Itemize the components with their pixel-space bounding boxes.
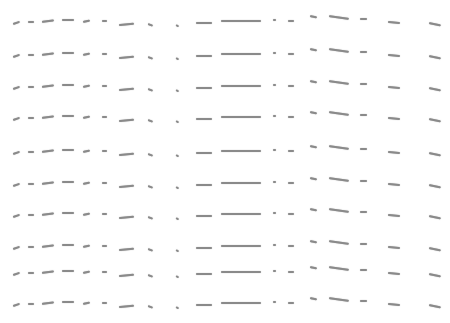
- stroke-mark: [83, 116, 90, 119]
- stroke-mark: [273, 84, 276, 86]
- stroke-mark: [360, 211, 367, 213]
- stroke-mark: [221, 85, 261, 87]
- stroke-mark: [310, 145, 317, 148]
- stroke-mark: [388, 151, 400, 154]
- stroke-mark: [388, 303, 400, 306]
- stroke-mark: [102, 182, 107, 184]
- stroke-mark: [329, 145, 349, 150]
- stroke-mark: [13, 54, 20, 58]
- stroke-mark: [221, 302, 261, 304]
- stroke-mark: [83, 302, 90, 305]
- stroke-mark: [28, 246, 34, 248]
- stroke-mark: [42, 19, 54, 23]
- stroke-mark: [148, 248, 153, 252]
- stroke-mark: [28, 54, 34, 56]
- stroke-mark: [119, 305, 134, 308]
- stroke-mark: [62, 181, 74, 183]
- stroke-mark: [360, 51, 367, 53]
- stroke-mark: [42, 212, 54, 216]
- stroke-mark: [273, 149, 276, 151]
- stroke-mark: [329, 15, 349, 20]
- stroke-mark: [176, 89, 180, 92]
- stroke-mark: [329, 48, 349, 53]
- stroke-mark: [329, 297, 349, 302]
- stroke-mark: [310, 297, 317, 300]
- stroke-mark: [310, 111, 317, 114]
- stroke-mark: [148, 88, 153, 92]
- stroke-mark: [42, 270, 54, 274]
- stroke-mark: [310, 240, 317, 243]
- stroke-mark: [310, 80, 317, 83]
- stroke-mark: [176, 217, 180, 220]
- stroke-mark: [360, 148, 367, 150]
- stroke-mark: [13, 117, 20, 121]
- stroke-mark: [310, 208, 317, 211]
- stroke-mark: [360, 269, 367, 271]
- stroke-mark: [429, 152, 441, 156]
- stroke-mark: [102, 302, 107, 304]
- stroke-mark: [28, 86, 34, 88]
- stroke-mark: [83, 85, 90, 88]
- stroke-mark: [83, 213, 90, 216]
- stroke-mark: [221, 182, 261, 184]
- stroke-mark: [196, 55, 212, 57]
- stroke-mark: [288, 271, 294, 273]
- stroke-mark: [148, 153, 153, 157]
- stroke-mark: [148, 119, 153, 123]
- stroke-mark: [176, 186, 180, 189]
- stroke-pattern-canvas: [0, 0, 450, 323]
- stroke-mark: [42, 52, 54, 56]
- stroke-mark: [102, 271, 107, 273]
- stroke-mark: [176, 154, 180, 157]
- stroke-mark: [329, 177, 349, 182]
- stroke-mark: [196, 118, 212, 120]
- stroke-mark: [62, 301, 74, 303]
- stroke-mark: [288, 213, 294, 215]
- stroke-mark: [42, 301, 54, 305]
- stroke-mark: [221, 245, 261, 247]
- stroke-mark: [273, 301, 276, 303]
- stroke-mark: [221, 20, 261, 22]
- stroke-mark: [62, 244, 74, 246]
- stroke-mark: [360, 83, 367, 85]
- stroke-mark: [388, 117, 400, 120]
- stroke-mark: [329, 80, 349, 85]
- stroke-mark: [176, 275, 180, 278]
- stroke-mark: [176, 57, 180, 60]
- stroke-mark: [360, 180, 367, 182]
- stroke-mark: [388, 246, 400, 249]
- stroke-mark: [83, 271, 90, 274]
- stroke-mark: [102, 53, 107, 55]
- stroke-mark: [388, 272, 400, 275]
- stroke-mark: [102, 150, 107, 152]
- stroke-mark: [13, 272, 20, 276]
- stroke-mark: [119, 274, 134, 277]
- stroke-mark: [83, 245, 90, 248]
- stroke-mark: [119, 119, 134, 122]
- stroke-mark: [42, 244, 54, 248]
- stroke-mark: [310, 266, 317, 269]
- stroke-mark: [329, 240, 349, 245]
- stroke-mark: [196, 247, 212, 249]
- stroke-mark: [360, 243, 367, 245]
- stroke-mark: [119, 185, 134, 188]
- stroke-mark: [13, 303, 20, 307]
- stroke-mark: [13, 151, 20, 155]
- stroke-mark: [102, 213, 107, 215]
- stroke-mark: [176, 306, 180, 309]
- stroke-mark: [83, 150, 90, 153]
- stroke-mark: [119, 56, 134, 59]
- stroke-mark: [148, 23, 153, 27]
- stroke-mark: [62, 84, 74, 86]
- stroke-mark: [360, 18, 367, 20]
- stroke-mark: [176, 120, 180, 123]
- stroke-mark: [388, 214, 400, 217]
- stroke-mark: [429, 55, 441, 59]
- stroke-mark: [388, 54, 400, 57]
- stroke-mark: [196, 22, 212, 24]
- stroke-mark: [42, 84, 54, 88]
- stroke-mark: [119, 88, 134, 91]
- stroke-mark: [28, 214, 34, 216]
- stroke-mark: [102, 245, 107, 247]
- stroke-mark: [102, 116, 107, 118]
